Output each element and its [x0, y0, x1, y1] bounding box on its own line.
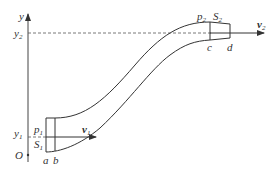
pipe-lower-wall	[46, 38, 230, 152]
y-axis-label: y	[18, 10, 24, 22]
v1-label: v1	[82, 123, 90, 137]
origin-dot	[27, 154, 29, 156]
origin-label: O	[15, 149, 23, 161]
s1-label: S1	[34, 138, 43, 152]
v2-label: v2	[257, 18, 266, 32]
pipe-flow-diagram: y y2 y1 O p1 S1 v1 a b p2 S2 v2 c d	[0, 0, 280, 174]
point-a-label: a	[43, 154, 49, 166]
point-b-label: b	[53, 154, 59, 166]
p2-label: p2	[196, 10, 207, 24]
pipe-upper-wall	[46, 22, 230, 118]
s2-label: S2	[213, 10, 223, 24]
point-d-label: d	[227, 41, 233, 53]
y1-label: y1	[13, 127, 22, 141]
p1-label: p1	[33, 123, 43, 137]
point-c-label: c	[207, 41, 212, 53]
y2-label: y2	[13, 27, 23, 41]
